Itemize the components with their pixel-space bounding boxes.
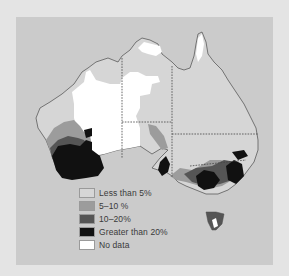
- legend-item-5-10: 5–10 %: [79, 201, 168, 211]
- legend-item-10-20: 10–20%: [79, 214, 168, 224]
- legend-swatch: [79, 188, 95, 198]
- legend-label: Greater than 20%: [99, 227, 168, 237]
- legend-label: 10–20%: [99, 214, 131, 224]
- legend-swatch: [79, 201, 95, 211]
- legend-swatch: [79, 240, 95, 250]
- legend-swatch: [79, 227, 95, 237]
- legend-item-greater-than-20: Greater than 20%: [79, 227, 168, 237]
- legend-label: Less than 5%: [99, 188, 152, 198]
- legend-label: No data: [99, 240, 129, 250]
- map-legend: Less than 5% 5–10 % 10–20% Greater than …: [79, 188, 168, 250]
- legend-item-less-than-5: Less than 5%: [79, 188, 168, 198]
- legend-swatch: [79, 214, 95, 224]
- legend-item-no-data: No data: [79, 240, 168, 250]
- legend-label: 5–10 %: [99, 201, 128, 211]
